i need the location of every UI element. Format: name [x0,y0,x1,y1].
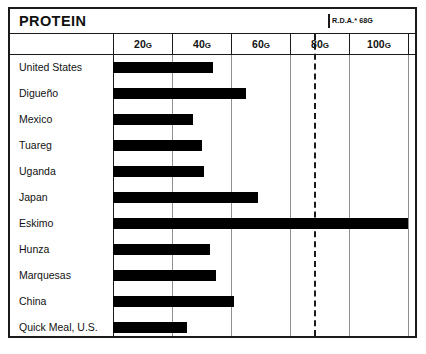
bar [113,114,193,125]
chart-row: Hunza [10,237,415,263]
x-axis-labels: 20G40G60G80G100G [10,34,415,55]
bar [113,296,234,307]
chart-row: Quick Meal, U.S. [10,315,415,341]
bar [113,218,408,229]
bar-category-label: Digueño [19,87,58,99]
x-axis-tick-label: 40G [193,38,211,50]
axis-band-divider [172,34,173,54]
protein-chart: PROTEIN R.D.A.* 68G 20G40G60G80G100G Uni… [8,7,417,338]
chart-row: Eskimo [10,211,415,237]
rda-annotation: R.D.A.* 68G [332,16,373,25]
chart-row: Japan [10,185,415,211]
bar [113,192,258,203]
chart-row: Mexico [10,107,415,133]
bar [113,88,246,99]
plot-area: United StatesDigueñoMexicoTuaregUgandaJa… [10,55,415,336]
bar [113,140,202,151]
chart-title-band: PROTEIN R.D.A.* 68G [10,9,415,34]
bar-category-label: Tuareg [19,139,52,151]
rda-marker-tick [328,14,330,28]
chart-row: Tuareg [10,133,415,159]
axis-band-divider [349,34,350,54]
chart-row: United States [10,55,415,81]
axis-band-divider [408,34,409,54]
bar-category-label: China [19,295,46,307]
axis-band-divider [231,34,232,54]
bar [113,322,187,333]
axis-band-divider [290,34,291,54]
bar-category-label: United States [19,61,82,73]
chart-row: Marquesas [10,263,415,289]
bar-category-label: Eskimo [19,217,53,229]
bar [113,166,204,177]
bar-category-label: Uganda [19,165,56,177]
bar-category-label: Marquesas [19,269,71,281]
x-axis-tick-label: 60G [252,38,270,50]
bar-category-label: Hunza [19,243,49,255]
chart-row: China [10,289,415,315]
x-axis-tick-label: 100G [367,38,391,50]
chart-row: Digueño [10,81,415,107]
bar [113,62,213,73]
page-title: PROTEIN [19,13,86,29]
chart-row: Uganda [10,159,415,185]
x-axis-tick-label: 20G [134,38,152,50]
bar-category-label: Quick Meal, U.S. [19,321,98,333]
bar-category-label: Japan [19,191,48,203]
bar [113,244,210,255]
bar-category-label: Mexico [19,113,52,125]
bar [113,270,216,281]
